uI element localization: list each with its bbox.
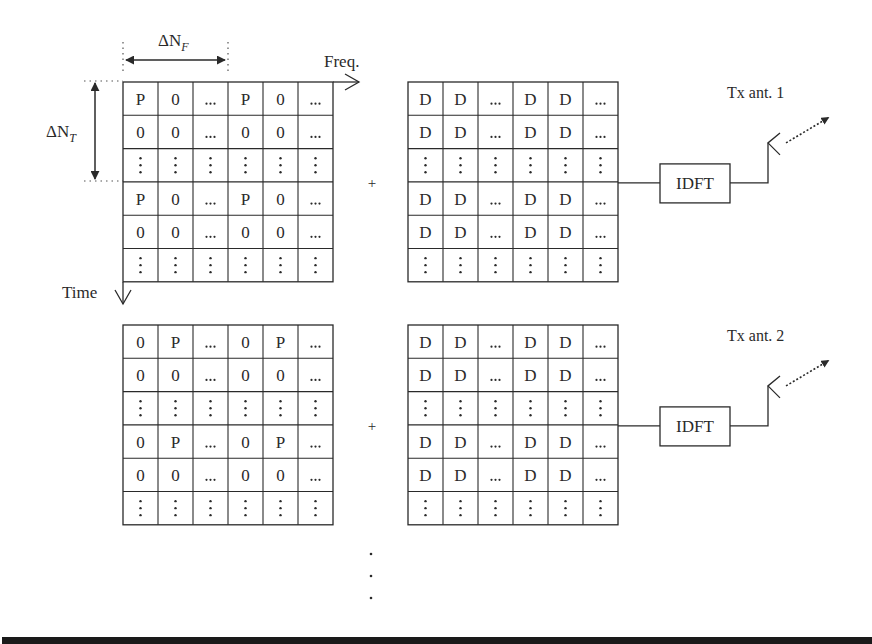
null-cell: 0: [276, 466, 285, 485]
freq-axis: Freq.: [324, 52, 359, 90]
data-cell: D: [419, 190, 431, 209]
null-cell: 0: [171, 190, 180, 209]
transmit-branches: P0P00000P0P00000DDDDDDDDDDDDDDDD+IDFTTx …: [123, 82, 828, 525]
idft-block: IDFT: [660, 164, 730, 203]
vertical-ellipsis-icon: [314, 500, 316, 516]
branch-tx-antenna-1: P0P00000P0P00000DDDDDDDDDDDDDDDD+IDFTTx …: [123, 82, 828, 282]
vertical-ellipsis-icon: [174, 500, 176, 516]
vertical-ellipsis-icon: [494, 400, 496, 416]
vertical-ellipsis-icon: [139, 500, 141, 516]
vertical-ellipsis-icon: [564, 257, 566, 273]
vertical-ellipsis-icon: [459, 157, 461, 173]
data-cell: D: [559, 333, 571, 352]
horizontal-ellipsis-icon: [205, 346, 215, 348]
null-cell: 0: [136, 366, 145, 385]
vertical-ellipsis-icon: [529, 400, 531, 416]
data-cell: D: [559, 366, 571, 385]
data-cell: D: [524, 333, 536, 352]
idft-label: IDFT: [676, 174, 714, 193]
null-cell: 0: [171, 366, 180, 385]
data-cell: D: [559, 466, 571, 485]
data-cell: D: [559, 190, 571, 209]
pilot-grid: P0P00000P0P00000: [123, 82, 333, 282]
null-cell: 0: [276, 90, 285, 109]
horizontal-ellipsis-icon: [205, 136, 215, 138]
pilot-cell: P: [241, 90, 250, 109]
vertical-ellipsis-icon: [599, 400, 601, 416]
data-cell: D: [454, 123, 466, 142]
radiation-arrow-icon: [786, 361, 828, 386]
null-cell: 0: [276, 123, 285, 142]
data-cell: D: [559, 433, 571, 452]
data-cell: D: [524, 123, 536, 142]
freq-axis-label: Freq.: [324, 52, 359, 71]
horizontal-ellipsis-icon: [490, 236, 500, 238]
vertical-ellipsis-icon: [314, 257, 316, 273]
vertical-ellipsis-icon: [174, 157, 176, 173]
pilot-cell: P: [171, 433, 180, 452]
data-cell: D: [419, 333, 431, 352]
data-cell: D: [419, 466, 431, 485]
vertical-ellipsis-icon: [139, 257, 141, 273]
null-cell: 0: [171, 223, 180, 242]
vertical-ellipsis-icon: [424, 157, 426, 173]
vertical-ellipsis-icon: [564, 500, 566, 516]
null-cell: 0: [136, 466, 145, 485]
data-cell: D: [524, 90, 536, 109]
vertical-ellipsis-icon: [564, 400, 566, 416]
null-cell: 0: [241, 333, 250, 352]
null-cell: 0: [241, 123, 250, 142]
null-cell: 0: [276, 190, 285, 209]
vertical-ellipsis-icon: [209, 500, 211, 516]
null-cell: 0: [241, 433, 250, 452]
vertical-ellipsis-icon: [494, 157, 496, 173]
null-cell: 0: [136, 333, 145, 352]
horizontal-ellipsis-icon: [205, 202, 215, 204]
vertical-ellipsis-icon: [564, 157, 566, 173]
horizontal-ellipsis-icon: [205, 103, 215, 105]
data-cell: D: [454, 466, 466, 485]
vertical-ellipsis-icon: [459, 500, 461, 516]
null-cell: 0: [241, 223, 250, 242]
data-cell: D: [524, 223, 536, 242]
data-cell: D: [454, 333, 466, 352]
horizontal-ellipsis-icon: [595, 346, 605, 348]
horizontal-ellipsis-icon: [310, 479, 320, 481]
vertical-ellipsis-icon: [209, 400, 211, 416]
pilot-cell: P: [276, 333, 285, 352]
data-cell: D: [454, 90, 466, 109]
delta-nt-label: ΔNT: [46, 122, 77, 145]
antenna-label: Tx ant. 2: [727, 327, 784, 344]
horizontal-ellipsis-icon: [205, 445, 215, 447]
vertical-ellipsis-icon: [174, 257, 176, 273]
vertical-ellipsis-icon: [599, 157, 601, 173]
horizontal-ellipsis-icon: [310, 379, 320, 381]
vertical-ellipsis-icon: [529, 157, 531, 173]
data-cell: D: [559, 90, 571, 109]
data-cell: D: [524, 366, 536, 385]
horizontal-ellipsis-icon: [310, 346, 320, 348]
horizontal-ellipsis-icon: [490, 103, 500, 105]
horizontal-ellipsis-icon: [205, 379, 215, 381]
time-axis-label: Time: [62, 283, 97, 302]
vertical-ellipsis-icon: [139, 400, 141, 416]
delta-nf-annotation: ΔNF: [123, 31, 228, 74]
vertical-ellipsis-icon: [279, 400, 281, 416]
null-cell: 0: [136, 223, 145, 242]
null-cell: 0: [171, 90, 180, 109]
vertical-ellipsis-icon: [599, 257, 601, 273]
vertical-ellipsis-icon: [279, 157, 281, 173]
horizontal-ellipsis-icon: [490, 202, 500, 204]
horizontal-ellipsis-icon: [595, 379, 605, 381]
vertical-ellipsis-icon: [139, 157, 141, 173]
horizontal-ellipsis-icon: [595, 236, 605, 238]
horizontal-ellipsis-icon: [595, 136, 605, 138]
pilot-cell: P: [171, 333, 180, 352]
delta-nt-annotation: ΔNT: [46, 81, 123, 181]
vertical-ellipsis-icon: [424, 500, 426, 516]
null-cell: 0: [171, 466, 180, 485]
pilot-cell: P: [241, 190, 250, 209]
pilot-cell: P: [276, 433, 285, 452]
vertical-ellipsis-icon: [174, 400, 176, 416]
vertical-ellipsis-icon: [424, 257, 426, 273]
